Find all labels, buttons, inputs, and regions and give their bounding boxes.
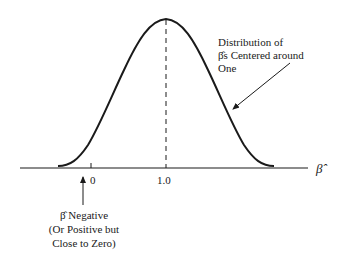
distribution-diagram: β̂ 0 1.0 Distribution of β̂s Centered ar…	[0, 0, 343, 260]
negative-label-line1: β̂ Negative	[60, 209, 108, 221]
negative-label-line3: Close to Zero)	[52, 237, 116, 250]
tick-label-zero: 0	[90, 174, 96, 186]
distribution-label-line1: Distribution of	[218, 36, 283, 48]
distribution-arrow	[233, 63, 290, 109]
diagram-canvas: β̂ 0 1.0 Distribution of β̂s Centered ar…	[0, 0, 343, 260]
x-axis-label: β̂	[315, 161, 327, 176]
negative-label-line2: (Or Positive but	[49, 223, 119, 236]
distribution-label-line2: β̂s Centered around	[218, 49, 304, 61]
tick-label-one: 1.0	[157, 174, 171, 186]
distribution-label-line3: One	[218, 62, 236, 74]
